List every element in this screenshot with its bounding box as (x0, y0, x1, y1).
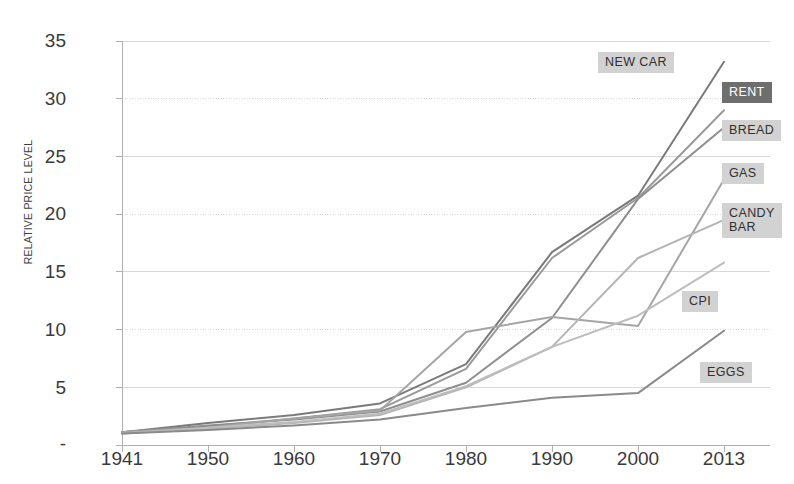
series-label-candy-bar: CANDY BAR (722, 203, 782, 238)
grid-lines (122, 41, 770, 387)
series-line-new-car (122, 62, 724, 433)
series-line-eggs (122, 331, 724, 434)
price-level-line-chart: RELATIVE PRICE LEVEL 35 30 25 20 15 10 5… (0, 0, 794, 484)
series-lines (122, 62, 724, 434)
series-label-gas: GAS (722, 163, 764, 184)
series-label-rent: RENT (722, 82, 772, 103)
series-line-candy-bar (122, 220, 724, 434)
series-line-bread (122, 128, 724, 433)
series-label-cpi: CPI (682, 291, 718, 312)
series-line-cpi (122, 263, 724, 434)
plot-area (0, 0, 794, 484)
series-line-gas (122, 180, 724, 433)
series-label-eggs: EGGS (700, 362, 752, 383)
series-label-new-car: NEW CAR (598, 52, 674, 73)
series-label-bread: BREAD (722, 120, 781, 141)
